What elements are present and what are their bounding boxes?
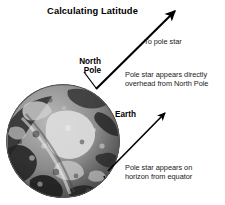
annotation-horizon-line1: Pole star appears on (125, 163, 192, 172)
annotation-horizon-line2: horizon from equator (125, 172, 192, 181)
label-north-pole-line2: Pole (84, 66, 101, 75)
annotation-horizon-from-equator: Pole star appears on horizon from equato… (125, 163, 192, 182)
label-north-pole-line1: North (79, 57, 101, 66)
label-north-pole: North Pole (57, 57, 101, 76)
annotation-overhead-line2: overhead from North Pole (125, 79, 208, 88)
label-earth: Earth (115, 110, 136, 119)
annotation-to-pole-star: To pole star (144, 37, 182, 46)
annotation-overhead-line1: Pole star appears directly (125, 70, 207, 79)
page-title: Calculating Latitude (0, 6, 185, 17)
calculating-latitude-figure: Calculating Latitude North Pole Earth To… (0, 0, 225, 205)
annotation-overhead-from-north-pole: Pole star appears directly overhead from… (125, 70, 208, 89)
